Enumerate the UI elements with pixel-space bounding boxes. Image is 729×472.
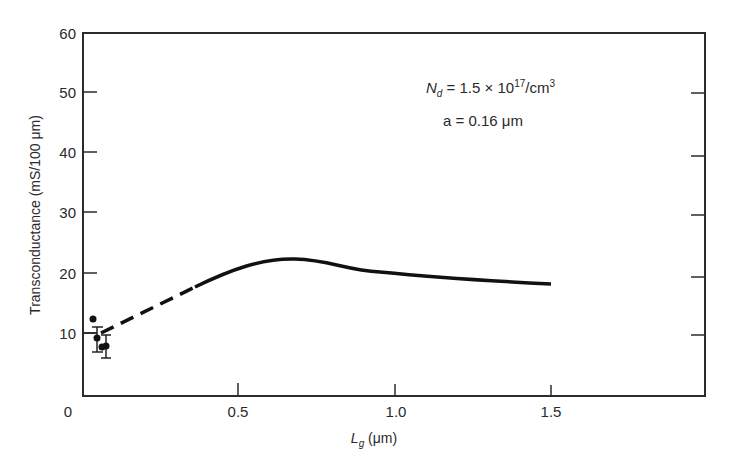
theory-curve-dashed xyxy=(101,287,195,333)
theory-curve-solid xyxy=(195,259,551,287)
annotation-doping: Nd = 1.5 × 1017/cm3 xyxy=(426,78,555,99)
x-origin-0: 0 xyxy=(64,403,72,420)
plot-frame xyxy=(83,33,705,396)
y-tick-labels: 60 50 40 30 20 10 0 xyxy=(59,25,76,420)
x-tick-1.0: 1.0 xyxy=(386,403,407,420)
chart: 60 50 40 30 20 10 0 0.5 1.0 1.5 Transcon… xyxy=(0,0,729,472)
x-tick-0.5: 0.5 xyxy=(228,403,249,420)
y-tick-30: 30 xyxy=(59,204,76,221)
y-tick-40: 40 xyxy=(59,144,76,161)
y-tick-60: 60 xyxy=(59,25,76,42)
y-tick-10: 10 xyxy=(59,325,76,342)
y-tick-50: 50 xyxy=(59,84,76,101)
x-tick-1.5: 1.5 xyxy=(541,403,562,420)
x-axis-label: Lg (μm) xyxy=(351,430,397,449)
y-ticks-left xyxy=(83,92,97,333)
x-tick-labels: 0.5 1.0 1.5 xyxy=(228,403,562,420)
y-ticks-right xyxy=(691,93,705,335)
y-tick-20: 20 xyxy=(59,265,76,282)
y-axis-label: Transconductance (mS/100 μm) xyxy=(27,115,43,315)
x-ticks xyxy=(238,383,551,396)
annotation-thickness: a = 0.16 μm xyxy=(443,112,523,129)
